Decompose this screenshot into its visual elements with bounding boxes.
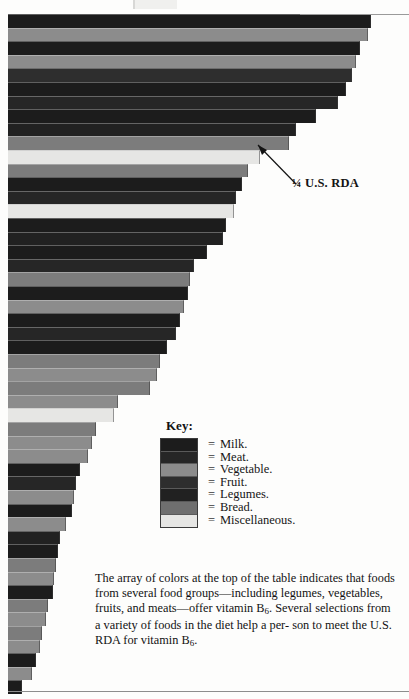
- figure-caption: The array of colors at the top of the ta…: [95, 571, 395, 649]
- bar-23-meat: [8, 327, 176, 341]
- bar-27-bread: [8, 381, 150, 395]
- bar-37-vegetable: [8, 517, 66, 531]
- bar-16-legumes: [8, 232, 223, 246]
- bar-28-vegetable: [8, 395, 118, 409]
- legend-body: =Milk.=Meat.=Vegetable.=Fruit.=Legumes.=…: [160, 438, 295, 528]
- legend-swatch-bread: [161, 502, 197, 515]
- bar-21-vegetable: [8, 300, 184, 314]
- chart-legend: Key: =Milk.=Meat.=Vegetable.=Fruit.=Legu…: [160, 418, 295, 528]
- bar-0-milk: [8, 14, 371, 28]
- bar-1-vegetable: [8, 28, 368, 42]
- bar-38-legumes: [8, 531, 60, 545]
- bar-19-bread: [8, 272, 190, 286]
- bar-48-vegetable: [8, 667, 32, 681]
- legend-swatch-vegetable: [161, 464, 197, 477]
- bar-44-vegetable: [8, 612, 46, 626]
- bar-20-milk: [8, 286, 188, 300]
- caption-subscript-2: 6: [190, 638, 195, 648]
- bar-40-bread: [8, 558, 56, 572]
- bar-11-bread: [8, 164, 248, 178]
- legend-title: Key:: [166, 418, 295, 434]
- bar-4-fruit: [8, 68, 352, 82]
- bottom-horizontal-rule: [8, 691, 409, 692]
- bar-42-milk: [8, 585, 53, 599]
- bar-46-vegetable: [8, 640, 40, 654]
- bar-18-meat: [8, 259, 194, 273]
- legend-swatch-miscellaneous: [161, 515, 197, 528]
- legend-equals-sign: =: [208, 463, 220, 476]
- bar-13-meat: [8, 191, 236, 205]
- bar-3-vegetable: [8, 55, 356, 69]
- bar-30-bread: [8, 422, 96, 436]
- bar-12-milk: [8, 177, 242, 191]
- legend-swatch-column: [160, 438, 198, 528]
- bar-31-vegetable: [8, 436, 92, 450]
- legend-equals-sign: =: [208, 514, 220, 527]
- bar-41-vegetable: [8, 572, 54, 586]
- bar-14-miscellaneous: [8, 204, 234, 218]
- bar-33-milk: [8, 463, 80, 477]
- bar-7-milk: [8, 109, 316, 123]
- legend-label-column: =Milk.=Meat.=Vegetable.=Fruit.=Legumes.=…: [208, 438, 295, 526]
- bar-6-meat: [8, 96, 338, 110]
- bar-39-milk: [8, 544, 58, 558]
- legend-equals-sign: =: [208, 438, 220, 451]
- bar-29-miscellaneous: [8, 408, 114, 422]
- bar-25-bread: [8, 354, 160, 368]
- legend-swatch-legumes: [161, 489, 197, 502]
- bar-36-milk: [8, 504, 72, 518]
- caption-line-3b: . Several: [269, 601, 312, 615]
- caption-line-5b: .: [194, 633, 197, 647]
- bar-35-vegetable: [8, 490, 74, 504]
- legend-equals-sign: =: [208, 501, 220, 514]
- legend-item-miscellaneous: =Miscellaneous.: [208, 514, 295, 527]
- bar-43-bread: [8, 599, 48, 613]
- bar-26-vegetable: [8, 368, 157, 382]
- bar-22-milk: [8, 313, 180, 327]
- bar-34-meat: [8, 476, 76, 490]
- bar-24-milk: [8, 340, 167, 354]
- bar-45-bread: [8, 626, 42, 640]
- rda-annotation-label: ¼ U.S. RDA: [292, 176, 359, 191]
- top-horizontal-rule: [300, 14, 409, 15]
- legend-swatch-fruit: [161, 477, 197, 490]
- caption-line-1: The array of colors at the top of the ta…: [95, 571, 364, 585]
- bar-5-milk: [8, 82, 346, 96]
- legend-label-text: Miscellaneous.: [220, 513, 295, 527]
- legend-swatch-meat: [161, 452, 197, 465]
- bar-15-milk: [8, 218, 226, 232]
- bar-2-milk: [8, 41, 360, 55]
- bar-17-milk: [8, 245, 207, 259]
- vitamin-b6-bar-chart-figure: ¼ U.S. RDA Key: =Milk.=Meat.=Vegetable.=…: [0, 0, 409, 699]
- bar-32-vegetable: [8, 449, 88, 463]
- bar-8-legumes: [8, 123, 296, 137]
- legend-swatch-milk: [161, 439, 197, 452]
- bar-10-miscellaneous: [8, 150, 260, 164]
- caption-subscript-1: 6: [265, 606, 270, 616]
- bar-47-milk: [8, 653, 36, 667]
- bar-9-bread: [8, 136, 289, 150]
